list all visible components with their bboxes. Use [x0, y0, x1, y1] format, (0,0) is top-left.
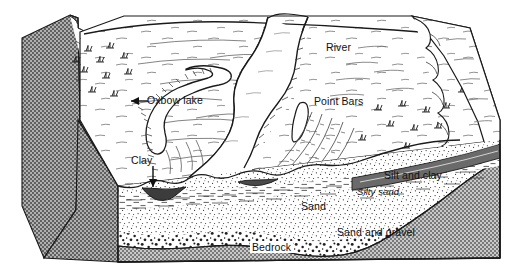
label-silt-and-clay: Silt and clay	[384, 169, 442, 181]
block-diagram-canvas	[0, 0, 522, 277]
label-silty-sand: Silty sand	[357, 186, 399, 197]
label-oxbow-lake: Oxbow lake	[147, 94, 203, 106]
label-bedrock: Bedrock	[250, 241, 293, 253]
label-sand-and-gravel: Sand and gravel	[337, 226, 415, 238]
label-sand: Sand	[301, 200, 326, 212]
label-point-bars: Point Bars	[314, 95, 363, 107]
label-river: River	[326, 41, 351, 53]
block-diagram-figure: Oxbow lake River Point Bars Clay Silt an…	[0, 0, 522, 277]
label-clay: Clay	[131, 154, 152, 166]
